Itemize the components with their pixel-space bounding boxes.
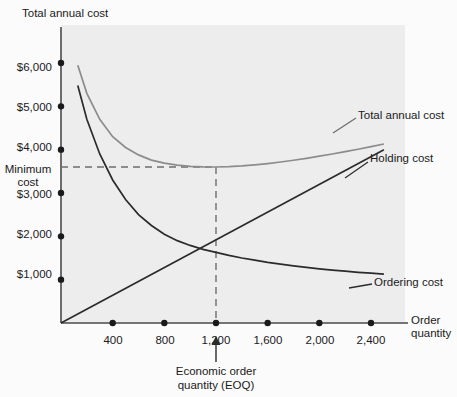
chart-container: Total annual cost Order quantity $6,000 … — [0, 0, 457, 397]
chart-plot-svg — [0, 0, 457, 397]
series-path-total-annual-cost — [78, 65, 384, 167]
eoq-arrow-icon — [212, 336, 221, 362]
series-path-holding-cost — [61, 150, 384, 323]
leader-line-ordering-cost — [349, 284, 372, 288]
series-path-ordering-cost — [78, 86, 384, 275]
leader-line-total-annual-cost — [333, 118, 356, 133]
